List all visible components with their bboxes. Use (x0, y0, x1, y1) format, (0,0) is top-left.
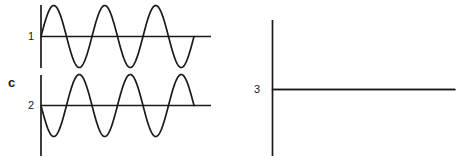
trace-label-2: 2 (28, 100, 34, 111)
waveform-figure: c 1 2 3 (0, 0, 461, 162)
trace-label-3: 3 (254, 84, 260, 95)
trace-plot-1 (40, 0, 215, 75)
group-label-c: c (8, 76, 15, 89)
trace-plot-2 (40, 72, 215, 160)
trace-label-1: 1 (28, 31, 34, 42)
trace-plot-3 (271, 18, 457, 158)
